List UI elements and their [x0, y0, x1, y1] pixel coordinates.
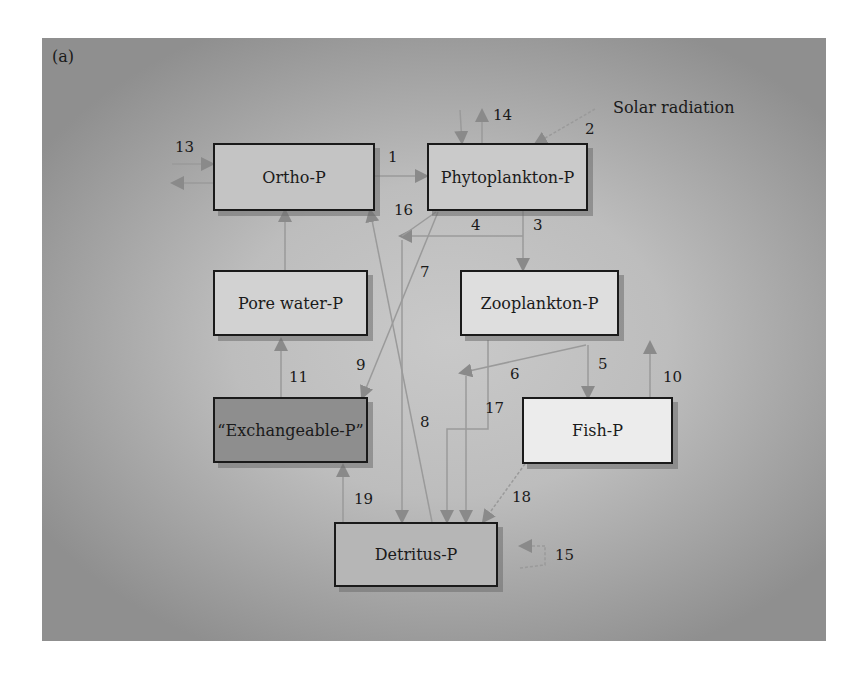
- flow-15-b: [520, 546, 545, 568]
- flow-label-5: 5: [598, 357, 608, 372]
- flow-label-9: 9: [356, 358, 366, 373]
- flow-label-4: 4: [471, 218, 481, 233]
- flow-6: [460, 345, 586, 373]
- compartment-exchangeable-p: “Exchangeable-P”: [213, 397, 368, 463]
- compartment-label: Fish-P: [572, 421, 623, 440]
- flow-label-16: 16: [394, 203, 413, 218]
- compartment-label: Detritus-P: [375, 545, 458, 564]
- flow-label-8: 8: [420, 415, 430, 430]
- flow-label-15: 15: [555, 548, 574, 563]
- solar-radiation-label: Solar radiation: [613, 100, 735, 116]
- compartment-label: Zooplankton-P: [481, 294, 599, 313]
- flow-label-18: 18: [512, 490, 531, 505]
- compartment-label: Pore water-P: [238, 294, 343, 313]
- flow-17: [447, 340, 488, 522]
- flow-label-7: 7: [420, 265, 430, 280]
- flow-8: [370, 210, 432, 522]
- flow-label-6: 6: [510, 367, 520, 382]
- flow-label-2: 2: [585, 122, 595, 137]
- flow-label-17: 17: [485, 401, 504, 416]
- compartment-label: Ortho-P: [262, 168, 325, 187]
- compartment-ortho-p: Ortho-P: [213, 143, 375, 211]
- flow-14-in: [460, 110, 462, 143]
- compartment-phytoplankton-p: Phytoplankton-P: [427, 143, 588, 211]
- flow-label-14: 14: [493, 108, 512, 123]
- compartment-label: “Exchangeable-P”: [217, 421, 363, 440]
- flow-label-13: 13: [175, 140, 194, 155]
- flow-label-19: 19: [354, 492, 373, 507]
- compartment-label: Phytoplankton-P: [441, 168, 575, 187]
- compartment-zooplankton-p: Zooplankton-P: [460, 270, 619, 336]
- compartment-detritus-p: Detritus-P: [334, 522, 498, 587]
- flow-label-1: 1: [388, 150, 398, 165]
- flow-label-11: 11: [289, 370, 308, 385]
- flow-label-3: 3: [533, 218, 543, 233]
- flow-label-10: 10: [663, 370, 682, 385]
- compartment-pore-water-p: Pore water-P: [213, 270, 368, 336]
- flow-7: [362, 212, 438, 398]
- compartment-fish-p: Fish-P: [522, 397, 673, 464]
